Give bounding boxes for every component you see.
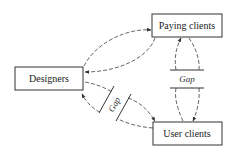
node-designers: Designers	[15, 67, 83, 90]
node-label-user-clients: User clients	[163, 128, 211, 139]
edge-users-to-paying-lower	[175, 88, 183, 121]
node-label-paying-clients: Paying clients	[159, 20, 215, 31]
node-paying-clients: Paying clients	[152, 14, 222, 37]
edge-users-to-gap-lower	[118, 119, 153, 128]
edge-paying-to-users-upper	[189, 38, 199, 70]
edge-paying-to-designers	[85, 38, 155, 72]
edge-gap-to-users-upper	[128, 98, 155, 121]
diagram-canvas: Gap Gap Paying clients Designers User cl…	[0, 0, 234, 154]
gap-label-paying-users: Gap	[179, 74, 195, 84]
node-user-clients: User clients	[153, 122, 222, 145]
edge-users-to-paying-upper	[175, 38, 181, 70]
edge-designers-to-gap-upper	[85, 82, 112, 92]
node-label-designers: Designers	[29, 73, 69, 84]
gap-label-designers-users: Gap	[106, 95, 122, 114]
edge-gap-to-designers-lower	[82, 94, 100, 112]
edge-designers-to-paying	[84, 30, 151, 66]
edge-paying-to-users-lower	[193, 88, 199, 121]
